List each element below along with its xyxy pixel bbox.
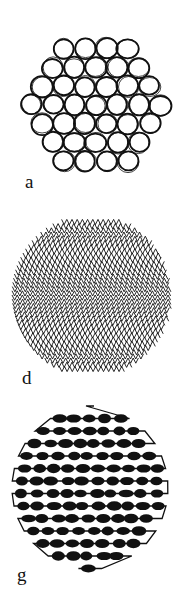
panel-label-a: a	[25, 172, 33, 191]
panel-d: d	[0, 200, 195, 400]
packed-circles-drawing	[0, 0, 195, 200]
panel-g: g	[0, 400, 195, 610]
panel-a: a	[0, 0, 195, 200]
panel-label-g: g	[17, 565, 27, 584]
panel-label-d: d	[22, 368, 32, 387]
beaded-serpentine-drawing	[0, 400, 195, 610]
